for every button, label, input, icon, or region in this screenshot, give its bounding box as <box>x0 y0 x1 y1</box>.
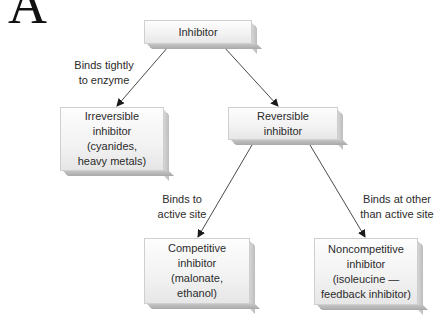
node-irreversible-text: Irreversible inhibitor (cyanides, heavy … <box>78 109 146 169</box>
node-irreversible-inhibitor: Irreversible inhibitor (cyanides, heavy … <box>60 107 164 171</box>
node-noncompetitive-text: Noncompetitive inhibitor (isoleucine — f… <box>321 242 411 302</box>
node-noncompetitive-inhibitor: Noncompetitive inhibitor (isoleucine — f… <box>314 238 418 305</box>
node-reversible-text: Reversible inhibitor <box>257 109 309 139</box>
node-inhibitor-text: Inhibitor <box>178 25 217 40</box>
edge-label-binds-active-site: Binds to active site <box>152 192 212 222</box>
node-competitive-inhibitor: Competitive inhibitor (malonate, ethanol… <box>144 238 250 304</box>
node-reversible-inhibitor: Reversible inhibitor <box>228 107 338 140</box>
node-inhibitor: Inhibitor <box>144 20 252 44</box>
edge-label-binds-other-site: Binds at other than active site <box>352 192 442 222</box>
node-competitive-text: Competitive inhibitor (malonate, ethanol… <box>168 241 226 301</box>
arrow-root-to-reversible <box>224 47 278 106</box>
arrow-reversible-to-competitive <box>198 145 252 237</box>
edge-label-binds-tightly: Binds tightly to enzyme <box>70 58 138 88</box>
arrow-reversible-to-noncompetitive <box>310 145 365 237</box>
